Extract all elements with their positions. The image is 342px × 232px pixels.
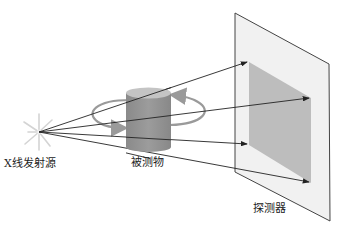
detector-label: 探测器 — [253, 199, 286, 215]
diagram-canvas — [0, 0, 342, 232]
detector-panel — [235, 13, 330, 221]
test-object-cylinder — [126, 88, 171, 153]
xray-source-label: X线发射源 — [4, 154, 56, 170]
object-label: 被测物 — [131, 153, 164, 169]
xray-source-icon — [24, 114, 52, 150]
